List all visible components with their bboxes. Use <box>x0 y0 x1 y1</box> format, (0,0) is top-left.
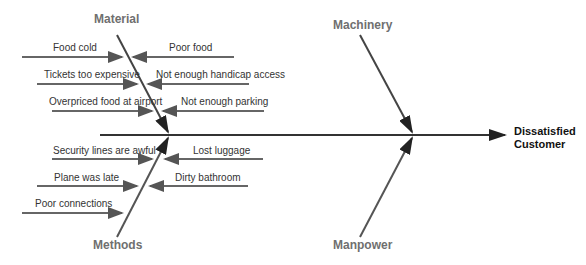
category-methods: Methods <box>93 238 142 252</box>
cause-label: Not enough parking <box>181 96 268 108</box>
cause-label: Tickets too expensive <box>44 69 140 81</box>
cause-label: Poor food <box>169 42 212 54</box>
category-material: Material <box>94 12 139 26</box>
effect-line-1: Dissatisfied <box>514 125 576 138</box>
cause-label: Lost luggage <box>193 145 250 157</box>
fishbone-diagram <box>0 0 586 265</box>
cause-label: Not enough handicap access <box>156 69 285 81</box>
cause-label: Plane was late <box>54 172 119 184</box>
cause-label: Security lines are awful <box>53 145 156 157</box>
category-manpower: Manpower <box>333 238 392 252</box>
cause-label: Poor connections <box>35 198 112 210</box>
manpower-bone <box>360 138 412 237</box>
cause-label: Food cold <box>53 42 97 54</box>
machinery-bone <box>360 35 412 132</box>
cause-label: Overpriced food at airport <box>49 96 162 108</box>
effect-line-2: Customer <box>514 138 576 151</box>
category-machinery: Machinery <box>333 18 392 32</box>
effect-label: Dissatisfied Customer <box>514 125 576 151</box>
cause-label: Dirty bathroom <box>175 172 241 184</box>
